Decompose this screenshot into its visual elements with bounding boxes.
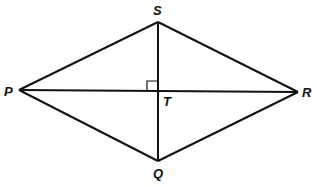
diagram-svg: S R Q P T [0,0,317,187]
side-rq [158,92,298,161]
side-sr [158,22,298,92]
side-qp [19,90,158,161]
rhombus-diagram: S R Q P T [0,0,317,187]
vertex-label-q: Q [153,166,163,181]
side-ps [19,22,158,90]
intersection-label-t: T [163,94,172,109]
vertex-label-r: R [302,85,312,100]
vertex-label-s: S [153,3,162,18]
right-angle-marker [147,81,157,91]
vertex-label-p: P [4,84,13,99]
